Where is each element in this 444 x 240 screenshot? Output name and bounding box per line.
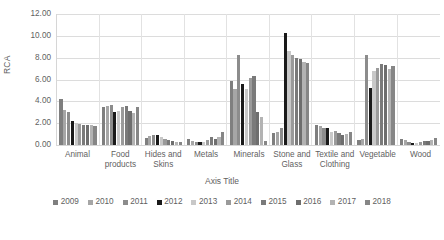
bar[interactable] [217,137,220,145]
bar[interactable] [210,137,213,145]
bar[interactable] [145,138,148,145]
bar[interactable] [334,131,337,145]
bar[interactable] [241,84,244,145]
bar[interactable] [156,135,159,145]
bar[interactable] [152,135,155,145]
bar[interactable] [191,141,194,145]
bar[interactable] [221,132,224,145]
bar[interactable] [59,99,62,145]
bar[interactable] [113,112,116,145]
legend-item[interactable]: 2011 [123,198,148,206]
bar[interactable] [384,65,387,145]
bar[interactable] [272,133,275,145]
legend-item[interactable]: 2018 [365,198,391,206]
bar[interactable] [287,51,290,145]
bar[interactable] [326,128,329,145]
bar[interactable] [434,138,437,145]
bar[interactable] [365,55,368,145]
bar[interactable] [195,142,198,145]
bar[interactable] [322,128,325,145]
legend-item[interactable]: 2014 [226,198,252,206]
bar[interactable] [90,125,93,145]
bar[interactable] [175,142,178,145]
bar[interactable] [256,112,259,145]
bar[interactable] [202,142,205,145]
bar[interactable] [315,125,318,145]
bar[interactable] [369,88,372,145]
bar[interactable] [376,68,379,146]
bar[interactable] [132,113,135,145]
bar[interactable] [214,139,217,145]
bar[interactable] [380,64,383,145]
bar[interactable] [306,63,309,145]
bar[interactable] [404,140,407,145]
bar[interactable] [426,141,429,145]
legend-item[interactable]: 2012 [157,198,183,206]
bar[interactable] [295,58,298,145]
bar[interactable] [260,117,263,145]
legend-item[interactable]: 2017 [330,198,356,206]
bar[interactable] [391,66,394,145]
bar[interactable] [337,133,340,145]
bar[interactable] [407,142,410,145]
bar[interactable] [388,69,391,145]
bar[interactable] [102,107,105,145]
legend-item[interactable]: 2015 [261,198,287,206]
bar[interactable] [264,141,267,145]
bar[interactable] [249,78,252,145]
bar[interactable] [349,132,352,145]
bar[interactable] [245,89,248,145]
bar[interactable] [400,139,403,145]
bar[interactable] [121,107,124,145]
bar[interactable] [171,141,174,145]
bar[interactable] [372,71,375,145]
bar[interactable] [411,143,414,145]
bar[interactable] [319,126,322,145]
bar[interactable] [163,139,166,145]
bar[interactable] [430,140,433,145]
bar[interactable] [125,106,128,145]
bar[interactable] [82,125,85,145]
bar[interactable] [117,111,120,145]
bar[interactable] [345,134,348,145]
bar[interactable] [198,142,201,145]
bar[interactable] [230,81,233,145]
bar[interactable] [276,132,279,145]
bar[interactable] [291,55,294,145]
legend-item[interactable]: 2013 [191,198,217,206]
bar[interactable] [252,76,255,145]
bar[interactable] [423,141,426,145]
bar[interactable] [280,128,283,145]
bar[interactable] [86,125,89,145]
legend-item[interactable]: 2010 [88,198,114,206]
bar[interactable] [237,55,240,145]
bar[interactable] [75,123,78,145]
legend-item[interactable]: 2009 [53,198,79,206]
legend-item[interactable]: 2016 [296,198,322,206]
bar[interactable] [233,89,236,145]
bar[interactable] [357,140,360,145]
bar[interactable] [206,140,209,145]
bar[interactable] [167,140,170,145]
bar[interactable] [330,132,333,145]
bar[interactable] [341,135,344,145]
bar[interactable] [299,59,302,145]
bar[interactable] [419,142,422,145]
bar[interactable] [128,111,131,145]
bar[interactable] [93,126,96,145]
bar[interactable] [148,136,151,145]
bar[interactable] [415,143,418,145]
bar[interactable] [302,62,305,145]
bar[interactable] [160,137,163,145]
bar[interactable] [187,139,190,145]
bar[interactable] [179,142,182,145]
bar[interactable] [110,105,113,145]
bar[interactable] [67,112,70,145]
bar[interactable] [361,139,364,145]
bar[interactable] [136,107,139,145]
bar[interactable] [71,121,74,145]
bar[interactable] [106,106,109,145]
bar[interactable] [78,124,81,145]
bar[interactable] [284,33,287,145]
bar[interactable] [63,110,66,145]
